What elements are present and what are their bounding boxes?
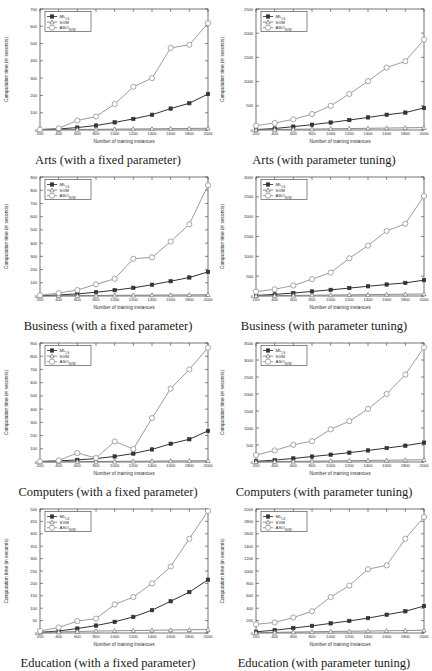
data-point-marker [422,278,425,281]
data-point-marker [56,458,61,463]
data-point-marker [169,442,172,445]
y-tick-label: 3000 [244,175,254,180]
data-point-marker [328,594,333,599]
x-tick-label: 800 [93,634,101,639]
data-point-marker [37,459,42,464]
y-tick-label: 300 [30,254,38,259]
data-point-marker [187,222,192,227]
x-tick-label: 2000 [203,131,213,136]
data-point-marker [309,277,314,282]
data-point-marker [348,451,351,454]
x-tick-label: 1200 [129,463,139,468]
data-point-marker [131,446,136,451]
data-point-marker [384,391,389,396]
data-point-marker [291,442,296,447]
y-tick-label: 300 [30,76,38,81]
data-point-marker [253,123,258,128]
x-tick-label: 1400 [147,297,157,302]
data-point-marker [56,290,61,295]
x-tick-label: 1800 [185,463,195,468]
data-point-marker [310,123,313,126]
data-point-marker [403,221,408,226]
data-point-marker [329,121,332,124]
y-tick-label: 600 [246,593,254,598]
x-tick-label: 1800 [185,297,195,302]
y-tick-label: 500 [30,227,38,232]
x-tick-label: 1000 [110,463,120,468]
data-point-marker [309,111,314,116]
y-tick-label: 400 [30,531,38,536]
y-tick-label: 1200 [244,556,254,561]
data-point-marker [113,455,116,458]
data-point-marker [404,111,407,114]
y-tick-label: 400 [30,58,38,63]
y-tick-label: 900 [30,341,38,346]
data-point-marker [131,256,136,261]
data-point-marker [187,367,192,372]
x-tick-label: 800 [93,463,101,468]
x-tick-label: 600 [74,463,82,468]
x-tick-label: 1800 [401,131,411,136]
data-point-marker [168,564,173,569]
data-point-marker [169,279,172,282]
x-tick-label: 400 [271,634,279,639]
y-tick-label: 500 [30,393,38,398]
data-point-marker [421,345,426,350]
y-tick-label: 400 [30,241,38,246]
data-point-marker [329,288,332,291]
chart-plot: 0100200300400500600700800900200400600800… [0,334,216,484]
data-point-marker [187,42,192,47]
data-point-marker [366,116,369,119]
y-tick-label: 500 [246,274,254,279]
chart-panel: 0501001502002503003504004505002004006008… [0,500,216,671]
data-point-marker [365,79,370,84]
x-tick-label: 1200 [345,297,355,302]
y-tick-label: 300 [30,420,38,425]
x-tick-label: 1400 [147,131,157,136]
data-point-marker [188,438,191,441]
y-tick-label: 500 [30,41,38,46]
y-tick-label: 400 [246,606,254,611]
data-point-marker [93,282,98,287]
data-point-marker [328,427,333,432]
y-tick-label: 1000 [244,254,254,259]
figure-panel-grid: 0100200300400500600700200400600800100012… [0,0,432,671]
y-tick-label: 50 [32,618,37,623]
y-tick-label: 1400 [244,544,254,549]
data-point-marker [94,624,97,627]
y-tick-label: 1500 [244,55,254,60]
data-point-marker [272,287,277,292]
legend-label: SVM [60,188,70,193]
data-point-marker [309,609,314,614]
chart-plot: 0200400600800100012001400160018002000200… [216,500,432,655]
y-tick-label: 3500 [244,341,254,346]
data-point-marker [385,613,388,616]
x-tick-label: 1400 [147,463,157,468]
data-point-marker [206,578,209,581]
data-point-marker [384,563,389,568]
data-point-marker [188,590,191,593]
data-point-marker [205,345,210,350]
y-tick-label: 200 [246,618,254,623]
x-tick-label: 1400 [363,297,373,302]
x-tick-label: 1600 [166,297,176,302]
data-point-marker [366,285,369,288]
chart-panel: 0500100015002000250020040060080010001200… [216,0,432,168]
x-tick-label: 1200 [345,634,355,639]
y-tick-label: 2000 [244,214,254,219]
y-tick-label: 500 [246,443,254,448]
chart-panel: 0100200300400500600700800900200400600800… [0,334,216,500]
data-point-marker [422,604,425,607]
y-tick-label: 1600 [244,531,254,536]
x-axis-label: Number of training instances [93,471,155,476]
x-tick-label: 1000 [326,463,336,468]
data-point-marker [348,118,351,121]
y-axis-label: Computation time (in seconds) [220,370,225,435]
legend-label: SVM [60,520,70,525]
y-tick-label: 1500 [244,409,254,414]
y-axis-label: Computation time (in seconds) [4,538,9,603]
x-tick-label: 1600 [166,463,176,468]
x-tick-label: 400 [55,634,63,639]
data-point-marker [272,120,277,125]
legend-label: SVM [276,520,286,525]
